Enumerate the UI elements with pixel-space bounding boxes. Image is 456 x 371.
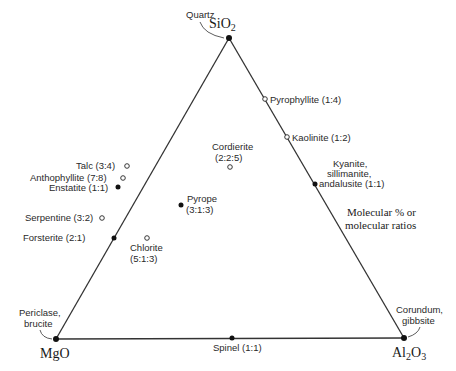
serpentine-point [100,216,105,221]
pyrope-point [179,203,184,208]
kyanite-point [313,182,318,187]
pyrophyllite-label: Pyrophyllite (1:4) [270,94,341,105]
mgo-label: MgO [40,346,70,361]
al2o3-label: Al2O3 [392,345,426,362]
talc-point [125,164,130,169]
quartz-label: Quartz [186,9,215,20]
talc-label: Talc (3:4) [76,160,115,171]
quartz-point [226,35,232,41]
kaolinite-label: Kaolinite (1:2) [292,132,351,143]
anthophyllite-point [121,176,126,181]
forsterite-point [112,236,117,241]
chlorite-label-2: (5:1:3) [130,253,157,264]
brucite-label: brucite [24,318,53,329]
spinel-label: Spinel (1:1) [213,342,262,353]
ternary-diagram: SiO2 MgO Al2O3 Quartz Periclase, brucite… [0,0,456,371]
periclase-arrow [40,330,52,339]
periclase-point [53,336,59,342]
kaolinite-point [285,135,290,140]
enstatite-label: Enstatite (1:1) [49,182,108,193]
cordierite-label-2: (2:2:5) [215,152,242,163]
chlorite-label-1: Chlorite [130,242,163,253]
note-line-2: molecular ratios [345,219,416,231]
enstatite-point [116,185,121,190]
cordierite-point [228,165,233,170]
periclase-label: Periclase, [19,307,61,318]
spinel-point [230,336,235,341]
pyrophyllite-point [263,97,268,102]
serpentine-label: Serpentine (3:2) [25,212,93,223]
pyrope-label-1: Pyrope [187,193,217,204]
gibbsite-label: gibbsite [402,315,435,326]
pyrope-label-2: (3:1:3) [186,204,213,215]
kyanite-label-3: andalusite (1:1) [319,178,384,189]
corundum-point [401,335,407,341]
forsterite-label: Forsterite (2:1) [23,232,85,243]
corundum-label: Corundum, [396,304,443,315]
chlorite-point [145,236,150,241]
cordierite-label-1: Cordierite [212,141,253,152]
note-line-1: Molecular % or [347,206,416,218]
corundum-arrow [408,327,420,337]
